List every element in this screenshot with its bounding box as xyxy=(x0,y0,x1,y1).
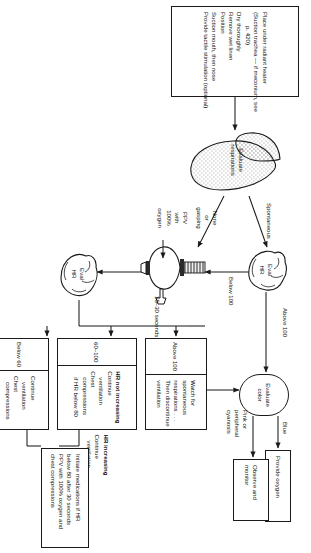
monitor-line: monitor xyxy=(243,465,251,515)
initial-steps-box: Place under radiant heater (Suction trac… xyxy=(171,6,299,97)
action-line: compressions xyxy=(80,371,88,423)
ppv-device-node xyxy=(141,238,207,312)
hr-below-60-header: Below 60 xyxy=(0,339,48,371)
heart-icon xyxy=(57,249,99,299)
initial-step-line: Suction mouth, then nose xyxy=(210,12,218,91)
evaluate-color-line1: Evaluate xyxy=(264,383,272,407)
initial-step-line: Remove wet linen xyxy=(227,12,235,91)
action-line: Watch for xyxy=(189,380,197,426)
medication-line: chest compressions xyxy=(48,454,56,542)
initial-step-line: Dry thoroughly xyxy=(235,12,243,91)
edge-label-blue: Blue xyxy=(281,422,289,434)
hr-60-to-100-header: 60–100 xyxy=(58,339,136,366)
ppv-line: PPV xyxy=(181,198,189,238)
initial-step-line: (Suction trachea — if meconium, see xyxy=(252,12,260,91)
column-title: HR not increasing xyxy=(114,371,122,423)
hr-below-60-actions: Continue ventilation Chest compressions xyxy=(0,371,48,429)
observe-and-monitor-box: Observe and monitor xyxy=(233,459,269,521)
action-line: Chest xyxy=(12,376,20,424)
evaluate-respirations-node: Evaluate respirations xyxy=(188,128,283,198)
peripheral-line: peripheral xyxy=(233,410,241,437)
lungs-icon xyxy=(188,128,283,198)
action-line: ventilation xyxy=(20,376,28,424)
hr-60-to-100-box: 60–100 HR not increasing Continue ventil… xyxy=(57,338,137,430)
none-line: None xyxy=(211,200,219,236)
action-line: Continue xyxy=(105,371,113,423)
bag-valve-mask-icon xyxy=(141,238,207,312)
hr-below-60-box: Below 60 Continue ventilation Chest comp… xyxy=(0,338,49,430)
action-line: Chest xyxy=(89,371,97,423)
heart-icon xyxy=(245,245,289,293)
column-title: HR increasing xyxy=(101,435,109,476)
action-line: ventilation xyxy=(97,371,105,423)
medication-line: PPV with 100% oxygen and xyxy=(57,454,65,542)
pink-line: Pink or xyxy=(241,410,249,437)
edge-label-spontaneous: Spontaneous xyxy=(265,203,273,239)
action-line: spontaneous xyxy=(180,380,188,426)
flowchart-canvas: Place under radiant heater (Suction trac… xyxy=(0,0,311,553)
hr-above-100-actions: Watch for spontaneous respirations . . .… xyxy=(146,375,206,431)
eval-hr-bottom-node: Eval HR xyxy=(57,249,99,299)
action-line: Continue xyxy=(93,435,101,476)
provide-oxygen-line: Provide oxygen xyxy=(274,456,282,516)
action-line: compressions xyxy=(3,376,11,424)
action-line: if HR below 80 xyxy=(72,371,80,423)
observe-line: Observe and xyxy=(251,465,259,515)
initial-step-line: p. 420) xyxy=(243,12,251,91)
gasping-line: gasping xyxy=(194,200,202,236)
edge-label-above-100-top: Above 100 xyxy=(281,308,289,337)
eval-hr-top-node: Eval HR xyxy=(245,245,289,293)
edge-label-below-100: Below 100 xyxy=(227,277,235,305)
medication-line: below 80 after 30 seconds xyxy=(65,454,73,542)
hr-above-100-header: Above 100 xyxy=(146,339,206,375)
initial-step-line: Provide tactile stimulation (optional) xyxy=(201,12,209,91)
action-line: Continue xyxy=(28,376,36,424)
initiate-medications-box: Initiate medications if HR below 80 afte… xyxy=(41,448,89,548)
evaluate-color-line2: color xyxy=(256,383,264,407)
edge-label-none-or-gasping: None or gasping xyxy=(194,200,219,236)
initial-step-line: Position xyxy=(218,12,226,91)
or-line: or xyxy=(203,200,211,236)
action-line: ventilation xyxy=(155,380,163,426)
ppv-timing-label: 15–30 seconds xyxy=(153,296,161,337)
action-line: Then discontinue xyxy=(163,380,171,426)
oxygen-line: oxygen xyxy=(156,198,164,238)
ppv-label: PPV with 100% oxygen xyxy=(156,198,189,238)
action-line: respirations . . . xyxy=(172,380,180,426)
with-line: with xyxy=(173,198,181,238)
medication-line: Initiate medications if HR xyxy=(73,454,81,542)
hr-not-increasing-column: HR not increasing Continue ventilation C… xyxy=(58,366,136,428)
hr-above-100-box: Above 100 Watch for spontaneous respirat… xyxy=(145,338,207,430)
initial-step-line: Place under radiant heater xyxy=(260,12,268,91)
edge-label-pink-or-peripheral-cyanosis: Pink or peripheral cyanosis xyxy=(224,410,249,437)
percent-line: 100% xyxy=(164,198,172,238)
cyanosis-line: cyanosis xyxy=(224,410,232,437)
